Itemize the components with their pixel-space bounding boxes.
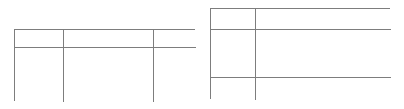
table-row	[15, 30, 196, 47]
table-cell	[63, 47, 153, 102]
cell-text	[64, 30, 153, 32]
table-row	[211, 9, 391, 29]
figure-canvas	[0, 0, 404, 109]
table-cell	[153, 47, 196, 102]
table-cell	[15, 47, 63, 102]
table-cell	[153, 30, 196, 47]
table-cell	[255, 9, 391, 29]
cell-text	[211, 30, 255, 32]
table-cell	[211, 9, 255, 29]
cell-text	[256, 30, 392, 32]
table-row	[15, 47, 196, 102]
table-row	[211, 29, 391, 77]
cell-text	[256, 9, 392, 11]
table-cell	[211, 29, 255, 77]
table-cell	[211, 77, 255, 100]
cell-text	[15, 30, 63, 32]
table-cell	[255, 29, 391, 77]
cell-text	[256, 78, 392, 80]
table-row	[211, 77, 391, 100]
cell-text	[154, 30, 197, 32]
left-table-grid	[15, 30, 196, 102]
cell-text	[15, 48, 63, 50]
table-cell	[255, 77, 391, 100]
cell-text	[154, 48, 197, 50]
left-table	[14, 29, 195, 101]
table-cell	[63, 30, 153, 47]
cell-text	[211, 78, 255, 80]
right-table	[210, 8, 390, 99]
cell-text	[211, 9, 255, 11]
table-cell	[15, 30, 63, 47]
cell-text	[64, 48, 153, 50]
right-table-grid	[211, 9, 391, 100]
